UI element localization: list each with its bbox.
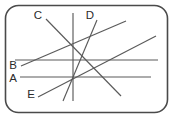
- geometry-figure: CDBAE: [0, 0, 173, 118]
- label-a: A: [9, 72, 17, 84]
- label-b: B: [9, 59, 17, 71]
- label-e: E: [27, 88, 35, 100]
- label-c: C: [34, 9, 42, 21]
- figure-container: CDBAE: [0, 0, 173, 118]
- label-d: D: [86, 9, 94, 21]
